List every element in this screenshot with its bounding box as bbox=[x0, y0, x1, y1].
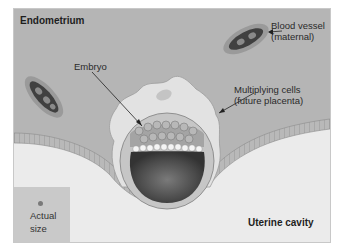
label-embryo: Embryo bbox=[74, 61, 107, 72]
label-multiplying-cells: Multiplying cells (future placenta) bbox=[234, 84, 303, 106]
region-label-uterine-cavity: Uterine cavity bbox=[248, 217, 314, 228]
actual-size-box: Actual size bbox=[14, 187, 70, 242]
actual-size-dot bbox=[38, 201, 43, 206]
implantation-diagram: Endometrium Embryo Blood vessel (materna… bbox=[13, 8, 331, 243]
actual-size-label: Actual size bbox=[30, 209, 56, 235]
label-blood-vessel: Blood vessel (maternal) bbox=[271, 20, 325, 42]
region-label-endometrium: Endometrium bbox=[20, 15, 84, 26]
